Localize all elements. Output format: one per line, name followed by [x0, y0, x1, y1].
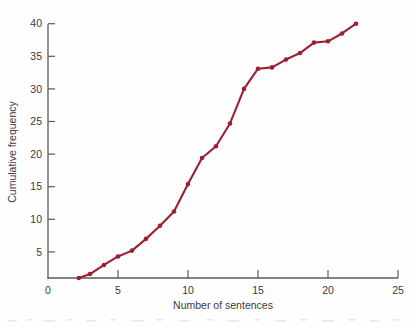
data-point — [270, 65, 275, 70]
data-point — [284, 57, 289, 62]
data-point — [144, 237, 149, 242]
x-axis-title: Number of sentences — [173, 299, 273, 311]
y-tick-labels: 510152025303540 — [30, 17, 42, 257]
data-point — [158, 224, 163, 229]
x-tick-label: 5 — [115, 284, 121, 296]
data-point — [354, 21, 359, 26]
data-point-markers — [77, 21, 359, 280]
y-tick-label: 25 — [30, 115, 42, 127]
data-point — [88, 272, 93, 277]
x-tick-marks — [118, 270, 398, 278]
data-point — [214, 144, 219, 149]
x-tick-labels: 0510152025 — [45, 284, 404, 296]
x-tick-label: 15 — [252, 284, 264, 296]
x-tick-label: 10 — [182, 284, 194, 296]
x-axis-group: 0510152025 Number of sentences — [45, 270, 404, 311]
chart-figure: 510152025303540 Cumulative frequency 051… — [0, 0, 414, 328]
data-point — [340, 31, 345, 36]
x-tick-label: 20 — [322, 284, 334, 296]
data-point — [256, 66, 261, 71]
data-point — [172, 209, 177, 214]
y-tick-marks — [48, 24, 55, 252]
y-axis-title: Cumulative frequency — [6, 100, 18, 202]
data-point — [200, 156, 205, 161]
y-tick-label: 15 — [30, 180, 42, 192]
data-point — [77, 276, 82, 281]
x-tick-label: 0 — [45, 284, 51, 296]
data-point — [102, 263, 107, 268]
y-tick-label: 5 — [36, 246, 42, 258]
data-point — [116, 254, 121, 259]
y-tick-label: 40 — [30, 17, 42, 29]
cumulative-frequency-line — [79, 24, 356, 278]
data-point — [242, 87, 247, 92]
cumulative-frequency-line-chart: 510152025303540 Cumulative frequency 051… — [0, 0, 414, 328]
data-point — [228, 121, 233, 126]
data-point — [130, 248, 135, 253]
y-axis-group: 510152025303540 Cumulative frequency — [6, 17, 55, 278]
y-tick-label: 30 — [30, 83, 42, 95]
y-tick-label: 10 — [30, 213, 42, 225]
data-point — [326, 39, 331, 44]
data-point — [298, 51, 303, 56]
y-tick-label: 35 — [30, 50, 42, 62]
data-point — [186, 182, 191, 187]
y-tick-label: 20 — [30, 148, 42, 160]
data-series-group — [77, 21, 359, 280]
data-point — [312, 40, 317, 45]
x-tick-label: 25 — [392, 284, 404, 296]
